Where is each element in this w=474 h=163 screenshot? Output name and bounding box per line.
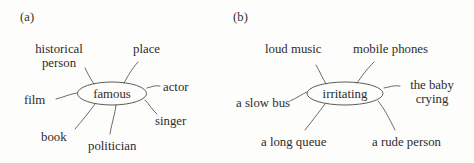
branch-label-line2: person — [24, 56, 94, 70]
branch-label-place: place — [133, 42, 160, 56]
connector-mobile-phones — [357, 62, 374, 83]
branch-label-a-slow-bus: a slow bus — [236, 96, 290, 110]
branch-label-a-long-queue: a long queue — [261, 135, 326, 149]
connector-a-rude-person — [378, 101, 395, 130]
branch-label-the-baby-crying: the baby crying — [403, 78, 461, 107]
branch-label-singer: singer — [155, 114, 186, 128]
branch-label-mobile-phones: mobile phones — [353, 42, 428, 56]
center-node-irritating: irritating — [307, 87, 383, 102]
branch-label-film: film — [24, 93, 45, 107]
branch-label-actor: actor — [163, 80, 189, 94]
connector-politician — [110, 105, 116, 134]
branch-label-historical-person: historical person — [24, 42, 94, 71]
connector-the-baby-crying — [384, 86, 400, 88]
panel-tag-a: (a) — [20, 10, 34, 25]
branch-label-book: book — [41, 130, 67, 144]
connector-a-long-queue — [305, 104, 325, 130]
connector-a-slow-bus — [290, 92, 307, 101]
connector-singer — [145, 100, 157, 114]
connector-place — [124, 62, 138, 83]
branch-label-politician: politician — [88, 139, 136, 153]
branch-label-line1: the baby — [403, 78, 461, 92]
connector-actor — [147, 86, 160, 88]
connector-loud-music — [316, 65, 326, 84]
mind-map-figure: (a) (b) famous historical person place a… — [0, 0, 474, 163]
connector-film — [56, 93, 77, 99]
branch-label-line2: crying — [403, 92, 461, 106]
connector-book — [75, 104, 95, 129]
center-node-famous: famous — [78, 87, 146, 102]
branch-label-a-rude-person: a rude person — [372, 135, 441, 149]
branch-label-line1: historical — [24, 42, 94, 56]
branch-label-loud-music: loud music — [265, 42, 322, 56]
panel-tag-b: (b) — [233, 10, 248, 25]
